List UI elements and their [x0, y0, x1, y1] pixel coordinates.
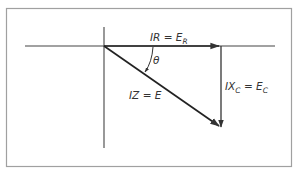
theta-angle-arc: [145, 47, 153, 72]
phasor-diagram: IR = ER θ IXC = EC IZ = E: [0, 0, 298, 175]
ixc-label: IXC = EC: [225, 80, 269, 95]
iz-label: IZ = E: [129, 89, 162, 101]
iz-vector-arrow: [104, 46, 219, 126]
theta-label: θ: [153, 54, 160, 66]
ir-label: IR = ER: [150, 31, 188, 46]
